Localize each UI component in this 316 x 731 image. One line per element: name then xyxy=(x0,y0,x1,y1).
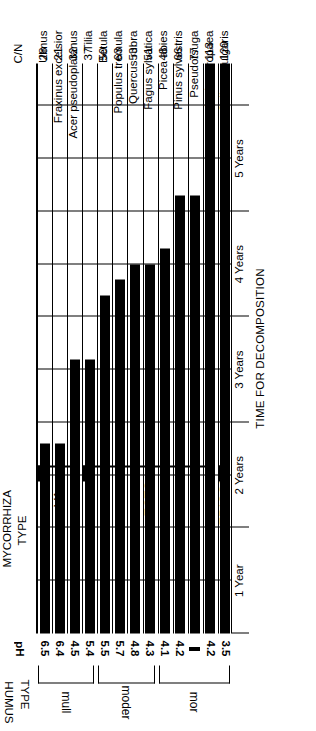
mycorrhiza-header-line1: MYCORRHIZA xyxy=(2,490,14,567)
ph-column-header: pH xyxy=(6,633,34,663)
figure-canvas: HUMUS TYPE mullmodermor pH 6.56.44.55.45… xyxy=(0,0,316,731)
humus-group-brackets xyxy=(36,663,232,691)
axis-tick-mark xyxy=(232,210,249,211)
ph-label: 5.5 xyxy=(98,640,110,656)
ph-label: 3.5 xyxy=(219,640,231,656)
mycorrhiza-label-text: ERICOID xyxy=(218,471,231,525)
species-label-row: Picea abies xyxy=(157,28,172,29)
mycorrhiza-label-va: VA xyxy=(36,481,81,515)
ph-value-acer-pseudoplatanus: 4.5 xyxy=(66,633,81,663)
humus-label-mor: mor xyxy=(157,689,232,715)
species-name-column: UlmusFraxinus excelsiorAcer pseudoplatan… xyxy=(36,28,232,29)
bar-pseudotsuga[interactable] xyxy=(190,195,200,633)
mycorrhiza-label-text: VA xyxy=(52,490,65,506)
species-label-row: Pinus sylvestris xyxy=(172,28,187,29)
species-label-row: Acer pseudoplatanus xyxy=(66,28,81,29)
axis-tick-3: 3 Years xyxy=(234,316,246,422)
row-separator xyxy=(158,63,159,633)
ph-label: 4.2 xyxy=(173,640,185,656)
species-label-row: Tilia xyxy=(81,28,96,29)
axis-tick-4: 4 Years xyxy=(234,211,246,317)
ph-value-larix-europaea: 4.2 xyxy=(202,633,217,663)
ph-value-calluna-vulgaris: 3.5 xyxy=(217,633,232,663)
humus-type-header-line2: TYPE xyxy=(18,679,30,709)
axis-tick-2: 2 Years xyxy=(234,422,246,528)
bar-fagus-sylvatica[interactable] xyxy=(145,264,155,633)
ph-label: 6.4 xyxy=(53,640,65,656)
ph-value-pinus-sylvestris: 4.2 xyxy=(172,633,187,663)
mycorrhiza-label-text: ECTO xyxy=(143,480,156,516)
ph-label: 4.5 xyxy=(68,640,80,656)
bar-larix-europaea[interactable] xyxy=(205,63,215,633)
ph-value-populus-tremula: 5.7 xyxy=(111,633,126,663)
species-name-ulmus: Ulmus xyxy=(38,30,50,63)
species-label-row: Quercus rubra xyxy=(126,28,141,29)
row-separator xyxy=(127,63,128,633)
ph-value-quercus-rubra: 4.8 xyxy=(126,633,141,663)
axis-tick-1: 1 Year xyxy=(234,527,246,633)
axis-title: TIME FOR DECOMPOSITION xyxy=(254,63,266,633)
row-separator xyxy=(143,63,144,633)
bar-calluna-vulgaris[interactable] xyxy=(220,63,230,633)
row-separator xyxy=(52,63,53,633)
species-label-row: Fagus sylvatica xyxy=(142,28,157,29)
species-name-fagus-sylvatica: Fagus sylvatica xyxy=(143,30,155,109)
bar-chart-plot-area xyxy=(36,63,232,633)
ph-column: 6.56.44.55.45.55.74.84.34.14.24.23.5 xyxy=(36,633,232,663)
ph-value-betula: 5.5 xyxy=(96,633,111,663)
species-name-fraxinus-excelsior: Fraxinus excelsior xyxy=(53,30,65,123)
humus-type-header: HUMUS TYPE xyxy=(0,667,36,723)
bar-quercus-rubra[interactable] xyxy=(130,264,140,633)
species-name-larix-europaea: Larix europaea xyxy=(204,30,216,107)
mycorrhiza-type-header: MYCORRHIZA TYPE xyxy=(2,471,36,567)
humus-label-moder: moder xyxy=(96,689,156,715)
bar-betula[interactable] xyxy=(100,295,110,633)
cn-header-label: C/N xyxy=(12,43,24,63)
row-separator xyxy=(218,63,219,633)
ph-label: 4.8 xyxy=(128,640,140,656)
species-name-quercus-rubra: Quercus rubra xyxy=(128,30,140,104)
species-label-row: Populus tremula xyxy=(111,28,126,29)
ph-value-fagus-sylvatica: 4.3 xyxy=(142,633,157,663)
ph-label: 4.1 xyxy=(158,640,170,656)
species-name-acer-pseudoplatanus: Acer pseudoplatanus xyxy=(68,30,80,138)
species-label-row: Larix europaea xyxy=(202,28,217,29)
mycorrhiza-bracket-ecto xyxy=(83,465,215,481)
species-label-row: Ulmus xyxy=(36,28,51,29)
ph-value-picea-abies: 4.1 xyxy=(157,633,172,663)
ph-value-fraxinus-excelsior: 6.4 xyxy=(51,633,66,663)
bar-pinus-sylvestris[interactable] xyxy=(175,195,185,633)
humus-group-labels: mullmodermor xyxy=(36,689,232,715)
ph-label: 4.3 xyxy=(143,640,155,656)
row-separator xyxy=(97,63,98,633)
axis-tick-mark xyxy=(232,632,249,633)
axis-tick-mark xyxy=(232,104,249,105)
humus-bracket-moder xyxy=(98,665,154,683)
axis-tick-5: 5 Years xyxy=(234,105,246,211)
axis-tick-mark xyxy=(232,421,249,422)
mycorrhiza-bracket-va xyxy=(38,465,79,481)
humus-label-text: mor xyxy=(188,692,200,713)
bar-populus-tremula[interactable] xyxy=(115,279,125,633)
species-name-picea-abies: Picea abies xyxy=(158,30,170,89)
mycorrhiza-label-ericoid: ERICOID xyxy=(217,481,232,515)
species-name-tilia: Tilia xyxy=(83,30,95,51)
ph-value-tilia: 5.4 xyxy=(81,633,96,663)
bar-picea-abies[interactable] xyxy=(160,248,170,633)
row-separator xyxy=(173,63,174,633)
mycorrhiza-label-ecto: ECTO xyxy=(81,481,217,515)
ph-label: 4.2 xyxy=(204,640,216,656)
humus-type-header-line1: HUMUS xyxy=(2,681,14,723)
species-name-pinus-sylvestris: Pinus sylvestris xyxy=(173,30,185,109)
species-label-row: Calluna vulgaris xyxy=(217,28,232,29)
species-name-populus-tremula: Populus tremula xyxy=(113,30,125,113)
row-separator xyxy=(82,63,83,633)
cn-column-header: C/N xyxy=(8,23,34,63)
ph-label: 5.4 xyxy=(83,640,95,656)
humus-label-mull: mull xyxy=(36,689,96,715)
species-name-pseudotsuga: Pseudotsuga xyxy=(189,30,201,97)
axis-tick-mark xyxy=(232,315,249,316)
species-label-row: Pseudotsuga xyxy=(187,28,202,29)
species-label-row: Fraxinus excelsior xyxy=(51,28,66,29)
ph-label: 5.7 xyxy=(113,640,125,656)
